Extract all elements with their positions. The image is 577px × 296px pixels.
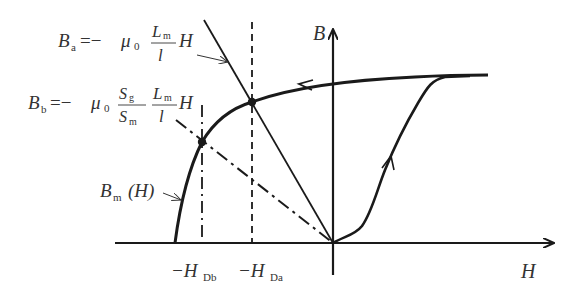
bm-curve	[175, 75, 488, 243]
svg-text:H: H	[178, 30, 194, 51]
svg-text:l: l	[158, 46, 163, 65]
svg-text:b: b	[41, 103, 47, 115]
svg-text:H: H	[178, 92, 194, 113]
svg-text:μ: μ	[120, 30, 131, 51]
svg-text:L: L	[152, 84, 162, 103]
svg-text:B: B	[100, 180, 112, 201]
hdb-tick-label: −H Db	[171, 260, 217, 283]
svg-text:S: S	[119, 108, 127, 125]
svg-text:=−: =−	[80, 30, 101, 51]
svg-text:0: 0	[104, 102, 110, 114]
svg-text:m: m	[113, 191, 122, 203]
svg-text:L: L	[151, 22, 161, 41]
b-axis-label: B	[313, 22, 325, 44]
svg-text:S: S	[119, 85, 127, 102]
svg-text:−H: −H	[238, 260, 266, 281]
svg-text:B: B	[28, 92, 40, 113]
bb-load-line	[176, 120, 333, 243]
h-axis-label: H	[520, 260, 537, 282]
svg-text:Db: Db	[203, 271, 217, 283]
svg-text:0: 0	[134, 40, 140, 52]
bm-pointer-arrow	[163, 193, 181, 200]
svg-text:g: g	[129, 92, 134, 103]
svg-text:m: m	[164, 92, 172, 103]
hda-tick-label: −H Da	[238, 260, 283, 283]
svg-text:(H): (H)	[128, 180, 154, 202]
ba-pointer-arrow	[197, 55, 228, 62]
svg-text:=−: =−	[50, 92, 71, 113]
bm-label: B m (H)	[100, 180, 154, 203]
bh-diagram: B H B a =− μ 0 L m l H B b =− μ 0 S g S …	[0, 0, 577, 296]
svg-text:m: m	[129, 116, 137, 127]
ba-load-line	[204, 20, 333, 243]
svg-text:Da: Da	[270, 271, 283, 283]
svg-text:a: a	[71, 41, 76, 53]
svg-text:−H: −H	[171, 260, 199, 281]
operating-point-a	[248, 98, 256, 106]
operating-point-b	[198, 138, 206, 146]
bb-equation: B b =− μ 0 S g S m L m l H	[28, 84, 194, 127]
ba-equation: B a =− μ 0 L m l H	[58, 22, 194, 65]
initial-magnetization-curve	[333, 76, 470, 243]
svg-text:μ: μ	[90, 92, 101, 113]
svg-text:m: m	[163, 30, 171, 41]
svg-text:B: B	[58, 30, 70, 51]
svg-text:l: l	[159, 107, 164, 126]
